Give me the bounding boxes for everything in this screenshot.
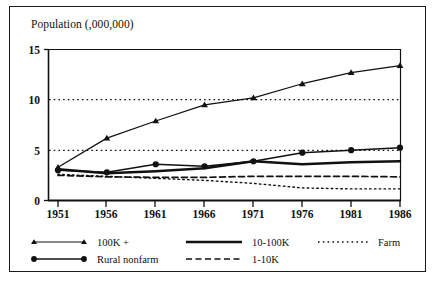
series-100k bbox=[55, 62, 404, 169]
data-point-marker bbox=[348, 147, 354, 153]
data-point-marker bbox=[153, 161, 159, 167]
data-point-marker bbox=[397, 62, 404, 68]
chart-figure: Population (,000,000) 15 10 5 0 bbox=[0, 0, 435, 281]
legend-label-farm: Farm bbox=[378, 237, 400, 248]
x-tick-1961: 1961 bbox=[144, 208, 167, 220]
series-line bbox=[58, 175, 400, 177]
data-point-marker bbox=[250, 158, 256, 164]
x-tick-1956: 1956 bbox=[95, 208, 118, 220]
series-rural-nonfarm bbox=[55, 145, 403, 176]
x-axis-ticks bbox=[58, 201, 400, 208]
data-point-marker bbox=[104, 169, 110, 175]
x-tick-1981: 1981 bbox=[340, 208, 363, 220]
gridlines bbox=[49, 100, 400, 151]
y-tick-10: 10 bbox=[29, 94, 41, 106]
legend-label-1-10k: 1-10K bbox=[252, 254, 279, 265]
x-axis-labels: 1951 1956 1961 1966 1971 1976 1981 1986 bbox=[47, 208, 412, 220]
data-series-layer bbox=[55, 62, 404, 189]
legend-swatch-rural-nonfarm bbox=[31, 256, 87, 262]
chart-plot: 15 10 5 0 1951 1956 1961 1966 1971 1976 … bbox=[0, 0, 435, 281]
legend-label-100k-plus: 100K + bbox=[97, 237, 129, 248]
legend-label-rural-nonfarm: Rural nonfarm bbox=[97, 254, 159, 265]
plot-axes bbox=[48, 49, 401, 201]
legend-swatch-100k-plus bbox=[31, 239, 87, 244]
x-tick-1976: 1976 bbox=[291, 208, 314, 220]
data-point-marker bbox=[201, 163, 207, 169]
data-point-marker bbox=[55, 164, 62, 170]
y-tick-5: 5 bbox=[34, 145, 40, 157]
y-tick-15: 15 bbox=[29, 44, 41, 56]
series-1-10k bbox=[58, 175, 400, 177]
x-tick-1971: 1971 bbox=[242, 208, 265, 220]
y-axis-labels: 15 10 5 0 bbox=[29, 44, 41, 207]
data-point-marker bbox=[397, 145, 403, 151]
x-tick-1986: 1986 bbox=[389, 208, 412, 220]
x-tick-1951: 1951 bbox=[47, 208, 70, 220]
y-tick-0: 0 bbox=[34, 195, 40, 207]
data-point-marker bbox=[299, 150, 305, 156]
legend-label-10-100k: 10-100K bbox=[252, 237, 290, 248]
x-tick-1966: 1966 bbox=[193, 208, 216, 220]
chart-legend: 100K + Rural nonfarm 10-100K 1-10K bbox=[31, 237, 400, 265]
